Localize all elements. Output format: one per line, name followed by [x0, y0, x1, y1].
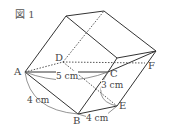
measure-ab: 4 cm: [27, 95, 49, 105]
vertex-label-f: F: [148, 60, 155, 71]
figure-caption: 図 1: [15, 6, 35, 21]
measure-ce: 3 cm: [101, 80, 123, 90]
vertex-label-c: C: [110, 68, 118, 79]
measure-ac: 5 cm: [56, 71, 78, 81]
measure-be: 4 cm: [86, 113, 108, 123]
vertex-label-a: A: [14, 66, 21, 77]
vertex-label-b: B: [73, 115, 80, 126]
vertex-label-e: E: [119, 100, 126, 111]
vertex-label-d: D: [55, 52, 63, 63]
